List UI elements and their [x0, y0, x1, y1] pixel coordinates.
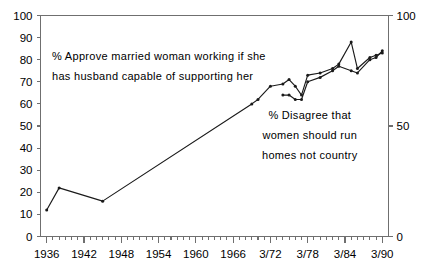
y-tick-label-left: 30: [20, 164, 33, 176]
series-data-point: [375, 56, 378, 59]
y-tick-label-right: 0: [397, 231, 403, 243]
series-data-point: [269, 85, 272, 88]
series-data-point: [101, 200, 104, 203]
y-tick-label-left: 60: [20, 98, 33, 110]
series-data-point: [58, 186, 61, 189]
y-tick-label-left: 20: [20, 186, 33, 198]
x-tick-label: 1960: [183, 248, 209, 260]
series-data-point: [288, 94, 291, 97]
series-data-point: [331, 69, 334, 72]
series-data-point: [337, 65, 340, 68]
annotation-disagree-line-1: % Disagree that: [262, 105, 358, 125]
x-tick-label: 3/84: [334, 248, 357, 260]
y-tick-label-right: 100: [397, 10, 416, 22]
series-data-point: [281, 94, 284, 97]
annotation-disagree-women-run-homes: % Disagree that women should run homes n…: [262, 105, 358, 165]
x-tick-label: 3/72: [259, 248, 281, 260]
series-data-point: [300, 98, 303, 101]
series-data-point: [381, 49, 384, 52]
series-data-point: [356, 71, 359, 74]
series-data-point: [250, 102, 253, 105]
annotation-disagree-line-2: women should run: [262, 125, 358, 145]
annotation-disagree-line-3: homes not country: [262, 145, 358, 165]
y-tick-label-left: 10: [20, 208, 33, 220]
series-data-point: [45, 208, 48, 211]
annotation-approve-line-2: has husband capable of supporting her: [52, 66, 266, 86]
x-tick-label: 1942: [71, 248, 97, 260]
series-data-point: [306, 80, 309, 83]
y-tick-label-left: 70: [20, 76, 33, 88]
y-tick-label-left: 90: [20, 32, 33, 44]
series-data-point: [281, 83, 284, 86]
chart-container: 0102030405060708090100 050100 1936194219…: [0, 0, 422, 272]
x-tick-label: 3/90: [371, 248, 393, 260]
series-data-point: [288, 78, 291, 81]
series-data-point: [257, 98, 260, 101]
y-tick-label-left: 100: [13, 10, 32, 22]
y-tick-label-left: 50: [20, 120, 33, 132]
series-data-point: [306, 74, 309, 77]
line-chart: 0102030405060708090100 050100 1936194219…: [0, 0, 422, 272]
series-data-point: [294, 98, 297, 101]
series-data-point: [319, 71, 322, 74]
series-data-point: [294, 85, 297, 88]
series-data-point: [350, 41, 353, 44]
x-tick-label: 1954: [146, 248, 172, 260]
x-tick-label: 1936: [34, 248, 60, 260]
x-tick-label: 1948: [108, 248, 134, 260]
series-data-point: [350, 69, 353, 72]
y-tick-label-left: 0: [26, 231, 32, 243]
annotation-approve-married-woman-working: % Approve married woman working if she h…: [52, 46, 266, 86]
y-tick-label-left: 40: [20, 142, 33, 154]
y-tick-label-right: 50: [397, 120, 410, 132]
x-tick-label: 1966: [220, 248, 246, 260]
x-tick-label: 3/78: [297, 248, 319, 260]
y-tick-label-left: 80: [20, 54, 33, 66]
plot-background: [0, 0, 422, 272]
annotation-approve-line-1: % Approve married woman working if she: [52, 46, 266, 66]
series-data-point: [368, 58, 371, 61]
series-data-point: [319, 76, 322, 79]
series-data-point: [356, 67, 359, 70]
